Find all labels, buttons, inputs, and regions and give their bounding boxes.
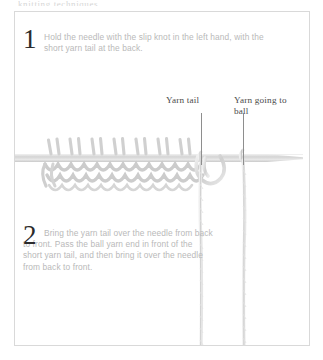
stitch-loops-upper <box>49 139 191 155</box>
callout-label-yarn-tail: Yarn tail <box>166 95 199 106</box>
step-2-text: Bring the yarn tail over the needle from… <box>23 228 213 273</box>
leader-line-yarn-going-to-ball <box>243 113 244 165</box>
step-1-text: Hold the needle with the slip knot in th… <box>44 32 271 54</box>
step-1: 1 Hold the needle with the slip knot in … <box>23 32 271 54</box>
step-1-number: 1 <box>23 26 37 53</box>
knitted-fabric <box>43 164 203 190</box>
instruction-panel: 1 Hold the needle with the slip knot in … <box>14 11 310 346</box>
leader-line-yarn-tail <box>201 113 202 165</box>
step-2: 2 Bring the yarn tail over the needle fr… <box>23 228 213 273</box>
yarn-over-needle <box>199 150 243 161</box>
knitting-illustration <box>15 12 310 346</box>
needle-shaft <box>15 154 303 162</box>
step-2-number: 2 <box>23 222 37 249</box>
cut-off-header-text: knitting techniques <box>18 0 138 6</box>
